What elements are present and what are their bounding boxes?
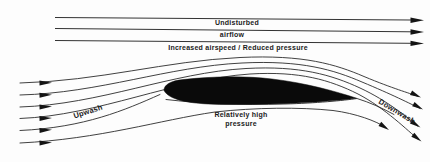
airfoil-flow-diagram: Undisturbed airflow Increased airspeed /… (0, 0, 430, 162)
flow-line-top-3 (55, 41, 411, 44)
label-airflow: airflow (220, 31, 244, 38)
label-high-pressure-line1: Relatively high (214, 110, 267, 119)
left-stream-arrowheads (39, 80, 52, 145)
label-high-pressure-line2: pressure (214, 119, 267, 128)
downwash-arrowhead-icon (410, 91, 422, 100)
airfoil-silhouette (164, 77, 357, 105)
label-high-pressure: Relatively high pressure (214, 110, 267, 128)
right-arrowhead-icon (411, 41, 425, 46)
downwash-arrowhead-icon (412, 102, 424, 112)
downwash-arrowhead-icon (378, 122, 390, 132)
right-arrowhead-icon (411, 29, 425, 34)
label-increased-airspeed: Increased airspeed / Reduced pressure (168, 44, 308, 51)
label-undisturbed: Undisturbed (215, 19, 259, 26)
right-arrowhead-icon (411, 18, 425, 23)
